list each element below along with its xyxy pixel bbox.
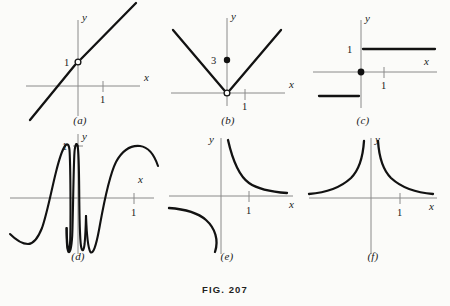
panel-d: x y 1 1 (d) <box>6 128 166 258</box>
hyperbola-branch-upper-right-e <box>228 140 287 193</box>
inverse-square-branch-right-f <box>378 141 433 194</box>
x-axis-label: x <box>288 78 294 90</box>
x-axis-label: x <box>423 55 429 67</box>
x-tick-label-1: 1 <box>381 80 386 91</box>
y-point-label-3: 3 <box>211 55 216 66</box>
x-axis-label: x <box>137 173 143 185</box>
figure-sheet: x y 1 1 (a) x y 3 1 (b) <box>0 0 450 306</box>
panel-c: x y 1 1 (c) <box>305 8 445 123</box>
panel-label-f: (f) <box>353 250 393 262</box>
filled-point-marker <box>358 69 365 76</box>
figure-caption: FIG. 207 <box>0 284 450 295</box>
x-axis-label: x <box>288 198 294 210</box>
y-axis-label: y <box>81 11 87 23</box>
x-tick-label-1: 1 <box>100 94 105 105</box>
y-axis-label: y <box>364 12 370 24</box>
open-circle-marker <box>224 90 230 96</box>
panel-label-d: (d) <box>58 250 98 262</box>
v-left-branch-b <box>173 30 224 90</box>
y-axis-label: y <box>230 10 236 22</box>
x-axis-label: x <box>143 71 149 83</box>
y-tick-label-1: 1 <box>64 57 69 68</box>
panel-f: x y 1 (f) <box>305 128 450 258</box>
panel-label-a: (a) <box>60 114 100 126</box>
y-axis-label: y <box>81 130 87 142</box>
line-curve-a <box>30 65 75 120</box>
y-tick-label-1: 1 <box>62 141 67 152</box>
panel-label-c: (c) <box>343 114 383 126</box>
panel-e: x y 1 (e) <box>165 128 310 258</box>
oscillating-curve-left-d <box>10 146 65 244</box>
v-right-branch-b <box>230 30 281 90</box>
panel-label-b: (b) <box>208 114 248 126</box>
x-tick-label-1: 1 <box>131 207 136 218</box>
y-tick-label-1: 1 <box>347 44 352 55</box>
open-circle-marker <box>75 59 81 65</box>
panel-b: x y 3 1 (b) <box>163 8 303 123</box>
inverse-square-branch-left-f <box>309 141 364 194</box>
y-axis-label: y <box>374 133 380 145</box>
main-right-branch-d <box>86 146 158 253</box>
y-axis-label: y <box>208 133 214 145</box>
x-tick-label-1: 1 <box>246 205 251 216</box>
panel-label-e: (e) <box>207 250 247 262</box>
hyperbola-branch-lower-left-e <box>169 208 217 252</box>
x-tick-label-1: 1 <box>397 207 402 218</box>
line-curve-a2 <box>81 3 136 59</box>
panel-a: x y 1 1 (a) <box>18 8 158 123</box>
filled-point-marker <box>224 57 230 63</box>
x-tick-label-1: 1 <box>242 101 247 112</box>
x-axis-label: x <box>428 200 434 212</box>
